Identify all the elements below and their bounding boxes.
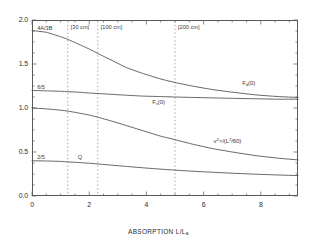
chart-root: 0.00.51.01.52.0 02468 [30 cm][100 cm][20…	[0, 0, 320, 243]
depth-marker-label: [30 cm]	[71, 24, 89, 30]
data-curves	[32, 31, 298, 176]
depth-marker-label: [200 cm]	[178, 24, 199, 30]
plot-canvas	[0, 0, 320, 243]
x-axis-title: ABSORPTION L/La	[128, 228, 189, 236]
x-tick-label: 0	[22, 201, 42, 208]
curve-name-label: v2>/(L2/60)	[214, 137, 242, 144]
y-tick-label: 0.5	[2, 148, 28, 155]
y-tick-label: 2.0	[2, 16, 28, 23]
curve-3	[32, 161, 298, 176]
curve-intercept-label: 6/5	[37, 84, 45, 90]
curve-0	[32, 31, 298, 98]
curve-intercept-label: 4A/3B	[37, 25, 52, 31]
y-tick-label: 1.5	[2, 60, 28, 67]
y-tick-label: 0.0	[2, 192, 28, 199]
curve-name-label: Fv(0)	[152, 99, 165, 106]
y-tick-label: 1.0	[2, 104, 28, 111]
curve-name-label: Fd(0)	[242, 80, 255, 87]
x-tick-label: 4	[136, 201, 156, 208]
curve-intercept-label: Q	[78, 154, 82, 160]
curve-intercept-label: 2/5	[37, 154, 45, 160]
x-axis-title-subscript: a	[186, 231, 189, 236]
depth-marker-label: [100 cm]	[101, 24, 122, 30]
x-tick-label: 8	[251, 201, 271, 208]
x-tick-label: 6	[194, 201, 214, 208]
curve-2	[32, 108, 298, 160]
x-tick-label: 2	[79, 201, 99, 208]
x-axis-title-main: ABSORPTION L/L	[128, 228, 186, 235]
